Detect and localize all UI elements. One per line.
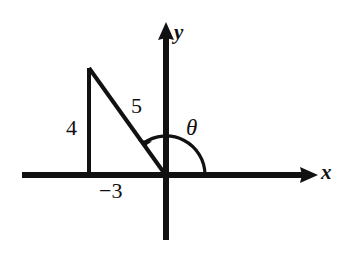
figure-canvas [0, 0, 342, 262]
x-axis-arrowhead [300, 167, 318, 183]
y-axis-label: y [174, 22, 183, 43]
vertical-leg-label: 4 [66, 117, 77, 139]
base-label: −3 [99, 180, 122, 202]
theta-angle-label: θ [186, 116, 197, 139]
triangle-hypotenuse [89, 68, 167, 177]
y-axis-arrowhead [158, 22, 174, 40]
hypotenuse-label: 5 [131, 95, 142, 117]
x-axis-label: x [321, 162, 332, 183]
math-figure: y x 4 5 −3 θ [0, 0, 342, 262]
